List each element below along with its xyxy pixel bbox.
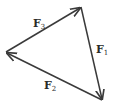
force-triangle-diagram: F3 F1 F2 — [0, 0, 119, 108]
label-f1: F1 — [96, 43, 108, 57]
label-f3: F3 — [33, 17, 45, 31]
label-f2: F2 — [44, 79, 56, 93]
